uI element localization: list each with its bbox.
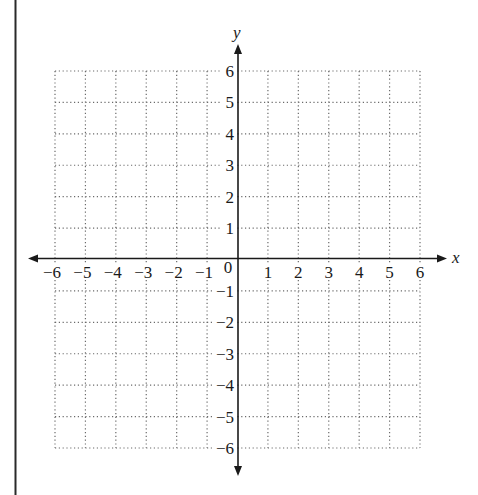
coordinate-plane: x y 0 −6−5−4−3−2−1123456 −6−5−4−3−2−1123…	[0, 0, 478, 495]
y-tick-label: 6	[226, 62, 235, 81]
axes: x y 0	[28, 23, 460, 476]
x-axis-left-arrow-icon	[28, 255, 38, 263]
y-axis-down-arrow-icon	[234, 466, 242, 476]
y-tick-label: −6	[216, 439, 234, 458]
x-tick-label: −6	[43, 263, 61, 282]
y-tick-label: −1	[216, 282, 234, 301]
x-axis-right-arrow-icon	[437, 255, 447, 263]
x-tick-label: 4	[355, 263, 364, 282]
y-tick-label: 5	[226, 93, 235, 112]
x-tick-label: −4	[104, 263, 123, 282]
x-tick-labels: −6−5−4−3−2−1123456	[41, 263, 426, 282]
y-tick-label: 3	[226, 156, 235, 175]
y-tick-label: −5	[216, 408, 234, 427]
y-axis-up-arrow-icon	[234, 44, 242, 54]
y-tick-label: 4	[226, 125, 235, 144]
x-tick-label: −5	[73, 263, 91, 282]
x-tick-label: 1	[264, 263, 273, 282]
x-tick-label: 5	[385, 263, 394, 282]
x-axis-label: x	[451, 248, 460, 267]
origin-label: 0	[224, 258, 233, 277]
x-tick-label: 6	[416, 263, 425, 282]
x-tick-label: −2	[165, 263, 183, 282]
y-axis-label: y	[231, 23, 241, 42]
x-tick-label: −1	[195, 263, 213, 282]
y-tick-label: −4	[216, 376, 235, 395]
y-tick-label: −3	[216, 345, 234, 364]
x-tick-label: 3	[325, 263, 334, 282]
y-tick-label: −2	[216, 313, 234, 332]
x-tick-label: −3	[134, 263, 152, 282]
y-tick-label: 1	[226, 219, 235, 238]
x-tick-label: 2	[294, 263, 303, 282]
y-tick-label: 2	[226, 188, 235, 207]
